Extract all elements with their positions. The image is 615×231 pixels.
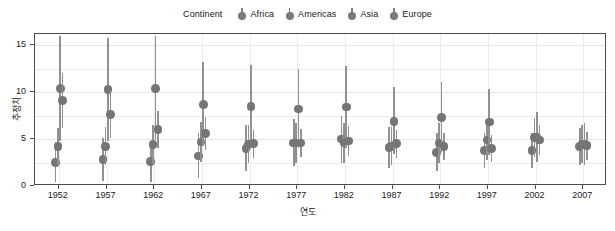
x-tick-mark	[58, 185, 59, 189]
data-point[interactable]	[249, 139, 258, 148]
legend: Continent Africa Americas Asia Europe	[0, 8, 615, 20]
data-point[interactable]	[390, 117, 399, 126]
gridline-minor	[35, 69, 605, 70]
x-tick-label: 1982	[334, 190, 354, 200]
data-point[interactable]	[487, 144, 496, 153]
x-tick-mark	[392, 185, 393, 189]
y-axis-title: 추정치	[10, 97, 23, 121]
x-tick-mark	[296, 185, 297, 189]
data-point[interactable]	[247, 102, 256, 111]
y-tick-mark	[30, 138, 34, 139]
data-point[interactable]	[297, 139, 306, 148]
x-tick-mark	[439, 185, 440, 189]
data-point[interactable]	[154, 125, 163, 134]
gridline-major	[35, 45, 605, 46]
data-point[interactable]	[199, 100, 208, 109]
legend-item-africa[interactable]: Africa	[236, 8, 274, 20]
y-tick-label: 15	[4, 39, 26, 49]
data-point[interactable]	[440, 142, 449, 151]
x-tick-mark	[582, 185, 583, 189]
x-tick-label: 1952	[48, 190, 68, 200]
x-axis-title: 연도	[0, 205, 615, 218]
data-point[interactable]	[392, 139, 401, 148]
data-point[interactable]	[344, 137, 353, 146]
legend-item-label: Asia	[360, 9, 378, 19]
gridline-minor	[35, 116, 605, 117]
point-marker-icon	[284, 8, 295, 20]
data-point[interactable]	[342, 103, 351, 112]
x-tick-mark	[487, 185, 488, 189]
x-tick-label: 1967	[191, 190, 211, 200]
x-tick-label: 2002	[524, 190, 544, 200]
data-point[interactable]	[583, 141, 592, 150]
data-point[interactable]	[201, 129, 210, 138]
x-tick-label: 1997	[477, 190, 497, 200]
x-tick-mark	[344, 185, 345, 189]
legend-item-label: Europe	[402, 9, 432, 19]
legend-item-americas[interactable]: Americas	[284, 8, 336, 20]
x-tick-label: 2007	[572, 190, 592, 200]
x-tick-mark	[106, 185, 107, 189]
gridline-major	[35, 139, 605, 140]
data-point[interactable]	[151, 84, 160, 93]
x-tick-mark	[535, 185, 536, 189]
x-tick-mark	[153, 185, 154, 189]
data-point[interactable]	[437, 113, 446, 122]
y-tick-label: 10	[4, 86, 26, 96]
legend-title: Continent	[183, 9, 222, 19]
data-point[interactable]	[54, 142, 63, 151]
legend-item-asia[interactable]: Asia	[346, 8, 378, 20]
y-tick-mark	[30, 44, 34, 45]
data-point[interactable]	[101, 142, 110, 151]
y-tick-mark	[30, 91, 34, 92]
y-tick-label: 5	[4, 133, 26, 143]
data-point[interactable]	[58, 96, 67, 105]
x-tick-label: 1957	[95, 190, 115, 200]
point-marker-icon	[346, 8, 357, 20]
legend-item-label: Africa	[250, 9, 274, 19]
point-marker-icon	[388, 8, 399, 20]
y-tick-label: 0	[4, 180, 26, 190]
x-tick-label: 1962	[143, 190, 163, 200]
y-tick-mark	[30, 185, 34, 186]
gridline-minor	[35, 163, 605, 164]
point-marker-icon	[236, 8, 247, 20]
x-tick-label: 1992	[429, 190, 449, 200]
data-point[interactable]	[149, 140, 158, 149]
x-tick-mark	[201, 185, 202, 189]
x-tick-label: 1987	[381, 190, 401, 200]
plot-panel	[34, 33, 606, 185]
legend-item-europe[interactable]: Europe	[388, 8, 432, 20]
gridline-major	[35, 92, 605, 93]
data-point[interactable]	[485, 118, 494, 127]
x-tick-label: 1977	[286, 190, 306, 200]
x-tick-label: 1972	[238, 190, 258, 200]
chart-root: Continent Africa Americas Asia Europe 05…	[0, 0, 615, 231]
legend-item-label: Americas	[298, 9, 336, 19]
data-point[interactable]	[535, 136, 544, 145]
data-point[interactable]	[294, 105, 303, 114]
x-tick-mark	[249, 185, 250, 189]
data-point[interactable]	[106, 110, 115, 119]
